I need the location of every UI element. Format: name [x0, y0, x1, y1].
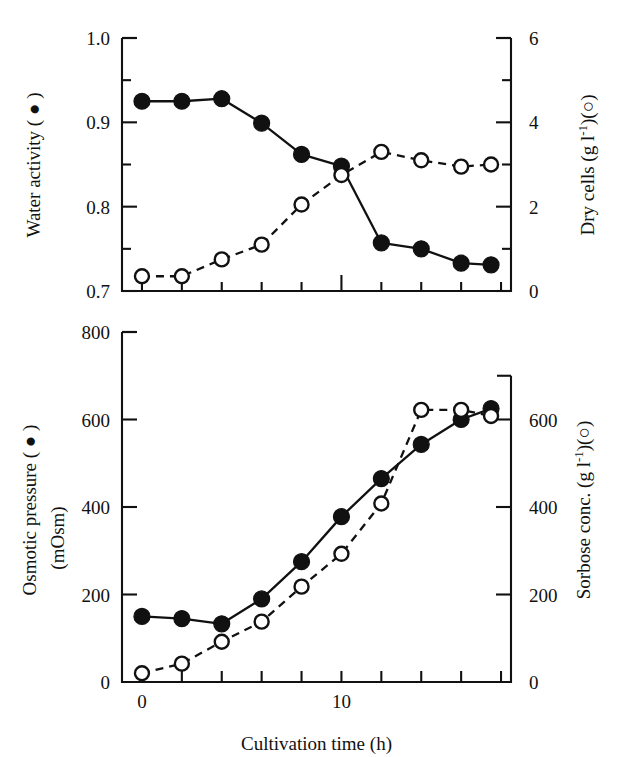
top-right-axis-title: Dry cells (g l-1)(○)	[575, 94, 599, 235]
top-left-tick-label: 0.8	[86, 197, 110, 218]
top-axes: 0.70.80.91.00246	[86, 28, 539, 302]
open-circle-marker	[374, 145, 388, 159]
bottom-right-tick-label: 400	[529, 497, 558, 518]
open-circle-marker	[255, 238, 269, 252]
filled-circle-marker	[294, 146, 310, 162]
bottom-right-tick-label: 600	[529, 410, 558, 431]
top-right-tick-label: 2	[529, 197, 539, 218]
top-right-tick-label: 4	[529, 112, 539, 133]
bottom-x-tick-label: 10	[332, 691, 351, 712]
svg-text:Dry cells (g l-1)(○): Dry cells (g l-1)(○)	[575, 94, 599, 235]
top-solid-series-line	[142, 99, 491, 265]
bottom-solid-series-line	[142, 409, 491, 624]
bottom-left-tick-label: 0	[101, 672, 111, 693]
filled-circle-marker	[333, 509, 349, 525]
top-panel: 0.70.80.91.00246Water activity ( ● )Dry …	[0, 0, 618, 320]
filled-circle-marker	[373, 471, 389, 487]
top-left-tick-label: 0.9	[86, 112, 110, 133]
bottom-panel: 02004006008000200400600010Osmotic pressu…	[0, 310, 618, 757]
filled-circle-marker	[483, 257, 499, 273]
svg-text:Sorbose conc. (g l-1)(○): Sorbose conc. (g l-1)(○)	[571, 421, 595, 600]
bottom-dashed-series-line	[142, 410, 491, 673]
svg-text:(mOsm): (mOsm)	[47, 506, 69, 569]
open-circle-marker	[135, 269, 149, 283]
bottom-left-tick-label: 200	[82, 585, 111, 606]
top-panel-plot: 0.70.80.91.00246Water activity ( ● )Dry …	[0, 0, 618, 320]
open-circle-marker	[334, 547, 348, 561]
figure-root: 0.70.80.91.00246Water activity ( ● )Dry …	[0, 0, 618, 757]
filled-circle-marker	[413, 241, 429, 257]
top-right-tick-label: 6	[529, 28, 539, 49]
open-circle-marker	[454, 403, 468, 417]
bottom-x-tick-label: 0	[137, 691, 147, 712]
top-right-tick-label: 0	[529, 281, 539, 302]
open-circle-marker	[334, 168, 348, 182]
open-circle-marker	[414, 403, 428, 417]
open-circle-marker	[484, 158, 498, 172]
bottom-right-tick-label: 0	[529, 672, 539, 693]
open-circle-marker	[414, 153, 428, 167]
filled-circle-marker	[174, 93, 190, 109]
bottom-left-tick-label: 800	[82, 322, 111, 343]
filled-circle-marker	[134, 608, 150, 624]
bottom-right-tick-label: 200	[529, 585, 558, 606]
bottom-right-axis-title: Sorbose conc. (g l-1)(○)	[571, 421, 595, 600]
bottom-axis-frame	[122, 332, 511, 682]
bottom-left-tick-label: 600	[82, 410, 111, 431]
x-axis-title: Cultivation time (h)	[241, 733, 392, 755]
filled-circle-marker	[254, 115, 270, 131]
open-circle-marker	[175, 657, 189, 671]
open-circle-marker	[295, 198, 309, 212]
filled-circle-marker	[174, 611, 190, 627]
open-circle-marker	[454, 160, 468, 174]
filled-circle-marker	[373, 235, 389, 251]
bottom-axes: 02004006008000200400600010	[82, 322, 558, 712]
filled-circle-marker	[254, 591, 270, 607]
open-circle-marker	[135, 666, 149, 680]
top-left-tick-label: 1.0	[86, 28, 110, 49]
open-circle-marker	[484, 409, 498, 423]
bottom-panel-plot: 02004006008000200400600010Osmotic pressu…	[0, 310, 618, 757]
filled-circle-marker	[294, 554, 310, 570]
filled-circle-marker	[134, 93, 150, 109]
top-left-axis-title: Water activity ( ● )	[23, 93, 45, 238]
open-circle-marker	[255, 615, 269, 629]
filled-circle-marker	[214, 91, 230, 107]
top-left-tick-label: 0.7	[86, 281, 110, 302]
bottom-left-tick-label: 400	[82, 497, 111, 518]
svg-text:Osmotic pressure ( ● ): Osmotic pressure ( ● )	[19, 425, 41, 596]
bottom-left-axis-title: Osmotic pressure ( ● )(mOsm)	[19, 425, 69, 596]
open-circle-marker	[374, 497, 388, 511]
filled-circle-marker	[453, 255, 469, 271]
filled-circle-marker	[214, 616, 230, 632]
open-circle-marker	[215, 252, 229, 266]
open-circle-marker	[175, 269, 189, 283]
top-dashed-series-line	[142, 152, 491, 276]
filled-circle-marker	[413, 436, 429, 452]
open-circle-marker	[215, 635, 229, 649]
open-circle-marker	[295, 580, 309, 594]
